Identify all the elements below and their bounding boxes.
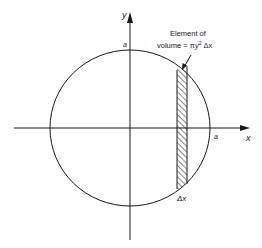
sphere-volume-diagram: y x a a Element of volume = πy2 Δx Δx [0, 0, 262, 248]
radius-label-top: a [123, 41, 127, 48]
y-axis-arrow-icon [127, 12, 133, 23]
x-axis-arrow-icon [240, 125, 250, 131]
annotation-line-2: volume = πy2 Δx [157, 40, 213, 50]
x-axis [14, 125, 250, 131]
radius-label-right: a [214, 133, 218, 140]
annotation-line-1: Element of [170, 29, 207, 38]
x-axis-label: x [245, 133, 251, 143]
volume-element-strip [177, 60, 187, 200]
strip-width-label: Δx [176, 194, 187, 203]
y-axis-label: y [121, 10, 127, 20]
